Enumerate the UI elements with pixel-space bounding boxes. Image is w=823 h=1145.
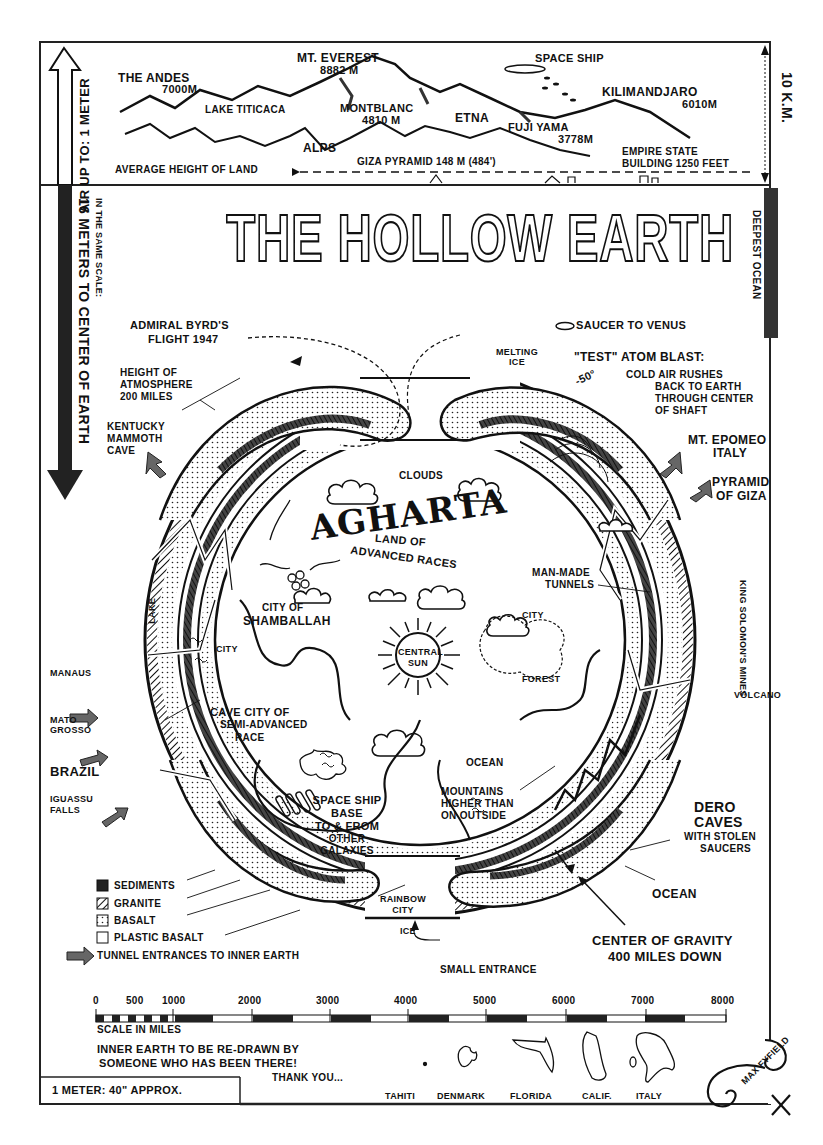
scale-tick-3000: 3000 xyxy=(316,996,339,1007)
spaceship-base-label-1: SPACE SHIP xyxy=(302,795,392,807)
fujiyama-label: FUJI YAMA xyxy=(508,122,569,134)
atmosphere-label-3: 200 MILES xyxy=(120,392,173,403)
empire-state-label-2: BUILDING 1250 FEET xyxy=(622,159,729,170)
brazil-label: BRAZIL xyxy=(50,765,99,779)
atom-blast-label: "TEST" ATOM BLAST: xyxy=(574,351,705,364)
scale-tick-8000: 8000 xyxy=(711,996,734,1007)
byrd-label-1: ADMIRAL BYRD'S xyxy=(130,320,229,332)
legend-arrow-icon xyxy=(67,947,94,965)
sixteen-meters-label: 16 METERS TO CENTER OF EARTH xyxy=(76,198,91,444)
footer-thanks: THANK YOU... xyxy=(272,1073,343,1084)
dero-caves-label-4: SAUCERS xyxy=(700,844,751,855)
gravity-label-1: CENTER OF GRAVITY xyxy=(592,934,733,948)
pyramid-giza-label-1: PYRAMID xyxy=(712,476,769,489)
andes-height: 7000m xyxy=(162,84,197,96)
kentucky-label-3: CAVE xyxy=(107,446,135,457)
scale-caption: SCALE IN MILES xyxy=(97,1025,181,1036)
city-left-label: CITY xyxy=(216,645,238,654)
scale-bar xyxy=(96,1009,726,1022)
cave-city-label-2: SEMI-ADVANCED xyxy=(220,720,308,731)
same-scale-label: IN THE SAME SCALE: xyxy=(94,198,103,297)
scale-tick-0: 0 xyxy=(93,996,99,1007)
rainbow-city-label-1: RAINBOW xyxy=(378,895,428,904)
legend-tunnel-entrances: TUNNEL ENTRANCES TO INNER EARTH xyxy=(97,951,299,962)
empire-state-label-1: EMPIRE STATE xyxy=(622,147,698,158)
ten-km-label: 10 K.M. xyxy=(779,72,794,123)
ocean-outer-label: OCEAN xyxy=(652,888,697,901)
central-sun-label-2: SUN xyxy=(398,659,438,668)
melting-ice-label-2: ICE xyxy=(495,358,539,367)
up-arrow-icon xyxy=(50,48,80,185)
atmosphere-label-2: ATMOSPHERE xyxy=(120,380,193,391)
small-entrance-label: SMALL ENTRANCE xyxy=(440,965,537,976)
pyramid-giza-label-2: OF GIZA xyxy=(716,490,767,503)
scale-tick-500: 500 xyxy=(126,996,144,1007)
kilimandjaro-label: KILIMANDJARO xyxy=(602,86,698,99)
city-right-label: CITY xyxy=(522,611,544,620)
ice-label: ICE xyxy=(400,927,416,936)
montblanc-label: MONTBLANC xyxy=(340,103,414,115)
central-sun-label-1: CENTRAL xyxy=(398,648,438,657)
region-outlines xyxy=(424,1032,675,1082)
deepest-ocean-label: DEEPEST OCEAN xyxy=(750,210,761,299)
cold-air-label-4: OF SHAFT xyxy=(655,406,707,417)
legend-sediments: SEDIMENTS xyxy=(114,881,175,892)
mountains-label-2: HIGHER THAN xyxy=(441,799,514,810)
down-arrow-icon xyxy=(47,470,83,500)
cold-air-label-3: THROUGH CENTER xyxy=(655,394,754,405)
atmosphere-label-1: HEIGHT OF xyxy=(120,368,177,379)
footer-note-1: INNER EARTH TO BE RE-DRAWN BY xyxy=(97,1044,299,1056)
kentucky-label-1: KENTUCKY xyxy=(107,422,165,433)
spaceship-base-label-3: TO & FROM xyxy=(302,821,392,833)
fujiyama-height: 3778m xyxy=(558,134,593,146)
meter-scale-box: 1 METER: 40" APPROX. xyxy=(52,1085,182,1097)
cold-air-label-1: COLD AIR RUSHES xyxy=(626,370,723,381)
lake-titicaca-label: LAKE TITICACA xyxy=(205,105,265,116)
kentucky-label-2: MAMMOTH xyxy=(107,434,162,445)
etna-label: ETNA xyxy=(455,112,489,125)
region-calif: CALIF. xyxy=(582,1092,612,1101)
spaceship-base-label-4: OTHER xyxy=(302,834,392,845)
iguassu-label-2: FALLS xyxy=(50,806,80,815)
shamballah-label-2: SHAMBALLAH xyxy=(243,615,331,628)
rainbow-city-label-2: CITY xyxy=(378,906,428,915)
mato-grosso-label-2: GROSSO xyxy=(50,726,91,735)
iguassu-label-1: IGUASSU xyxy=(50,795,93,804)
air-up-to-label: AIR UP TO: 1 METER xyxy=(78,78,92,213)
everest-height: 8882 m xyxy=(320,65,359,77)
montblanc-height: 4810 m xyxy=(362,115,401,127)
ocean-inner-label: OCEAN xyxy=(466,758,504,769)
region-florida: FLORIDA xyxy=(510,1092,552,1101)
scale-tick-2000: 2000 xyxy=(238,996,261,1007)
region-tahiti: TAHITI xyxy=(385,1092,415,1101)
scale-tick-5000: 5000 xyxy=(473,996,496,1007)
mountains-label-1: MOUNTAINS xyxy=(441,787,504,798)
scale-tick-4000: 4000 xyxy=(394,996,417,1007)
space-ship-label: SPACE SHIP xyxy=(535,53,604,65)
scale-tick-1000: 1000 xyxy=(162,996,185,1007)
scale-tick-7000: 7000 xyxy=(631,996,654,1007)
everest-label: MT. EVEREST xyxy=(297,52,379,65)
cave-city-label-3: RACE xyxy=(235,733,265,744)
spaceship-base-label-5: GALAXIES xyxy=(302,846,392,857)
dero-caves-label-2: CAVES xyxy=(694,815,743,830)
epomeo-label-2: ITALY xyxy=(713,447,747,460)
average-height-label: AVERAGE HEIGHT OF LAND xyxy=(115,165,258,176)
cave-city-label-1: CAVE CITY OF xyxy=(210,707,290,719)
shamballah-label-1: CITY OF xyxy=(262,603,303,614)
footer-note-2: SOMEONE WHO HAS BEEN THERE! xyxy=(99,1058,297,1070)
byrd-label-2: FLIGHT 1947 xyxy=(148,334,219,346)
region-denmark: DENMARK xyxy=(437,1092,485,1101)
hollow-earth-diagram: AIR UP TO: 1 METER 10 K.M. THE ANDES 700… xyxy=(0,0,823,1145)
lake-inner-label: LAKE xyxy=(148,598,157,624)
scale-tick-6000: 6000 xyxy=(552,996,575,1007)
volcano-label: VOLCANO xyxy=(734,691,781,700)
alps-label: ALPS xyxy=(303,142,336,155)
page-title: THE HOLLOW EARTH xyxy=(226,207,618,269)
gravity-label-2: 400 MILES DOWN xyxy=(608,950,722,964)
legend-granite: GRANITE xyxy=(114,899,161,910)
epomeo-label-1: MT. EPOMEO xyxy=(688,434,766,447)
forest-label: FOREST xyxy=(522,675,560,684)
manaus-label: MANAUS xyxy=(50,669,91,678)
mountains-label-3: ON OUTSIDE xyxy=(441,811,506,822)
